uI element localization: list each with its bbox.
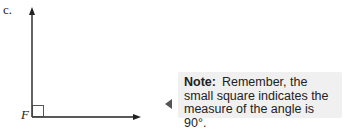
up-arrowhead-icon — [29, 7, 35, 15]
vertex-label: F — [21, 107, 29, 123]
left-triangle-icon — [165, 99, 172, 109]
note-label: Note: — [184, 75, 216, 89]
right-arrowhead-icon — [133, 114, 141, 120]
note-callout: Note:Remember, the small square indicate… — [178, 72, 342, 118]
right-angle-square-icon — [33, 106, 44, 117]
